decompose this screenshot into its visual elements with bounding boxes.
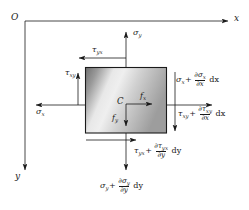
sigma-x-right-num: ∂σ — [194, 71, 202, 79]
sigma-x-left-sub: x — [41, 111, 44, 117]
tau-xy-left-label: τxy — [65, 69, 76, 77]
sigma-y-bottom-num: ∂σ — [118, 177, 126, 185]
tau-yx-bottom-sub: yx — [138, 150, 144, 156]
y-axis-label: y — [15, 172, 20, 181]
sigma-x-right-sub: x — [181, 79, 184, 85]
sigma-y-bottom-expression: σy + ∂σy ∂y dy — [100, 178, 143, 194]
tau-yx-bottom-den: ∂y — [156, 151, 166, 159]
tau-xy-right-num: ∂τ — [198, 105, 206, 113]
tau-yx-bottom-num: ∂τ — [154, 142, 162, 150]
sigma-y-top-sub: y — [138, 32, 141, 38]
tau-xy-right-diff: dx — [216, 109, 226, 118]
sigma-y-bottom-sub: y — [105, 185, 108, 191]
origin-label: O — [11, 13, 18, 22]
fx-label: fx — [140, 92, 146, 100]
sigma-y-bottom-den: ∂y — [119, 186, 129, 194]
tau-yx-bottom-num-sub: yx — [162, 145, 168, 151]
fy-sub: y — [115, 117, 118, 123]
sigma-y-bottom-diff: dy — [133, 181, 143, 190]
tau-xy-right-fraction: ∂τxy ∂x — [197, 106, 213, 122]
sigma-x-right-den: ∂x — [195, 80, 205, 88]
sigma-x-right-diff: dx — [209, 75, 219, 84]
tau-yx-bottom-diff: dy — [172, 146, 182, 155]
sigma-x-right-num-sub: x — [203, 74, 206, 80]
x-axis-label: x — [234, 14, 239, 23]
tau-xy-right-plus: + — [189, 109, 197, 118]
tau-xy-right-expression: τxy + ∂τxy ∂x dx — [178, 106, 225, 122]
tau-yx-bottom-plus: + — [145, 146, 153, 155]
sigma-y-top-label: σy — [133, 29, 142, 37]
fy-label: fy — [112, 114, 118, 122]
tau-yx-top-label: τyx — [92, 46, 103, 54]
sigma-x-right-plus: + — [185, 75, 193, 84]
sigma-x-left-label: σx — [36, 108, 45, 116]
sigma-x-right-expression: σx + ∂σx ∂x dx — [176, 72, 219, 88]
tau-yx-top-sub: yx — [96, 49, 102, 55]
tau-yx-bottom-fraction: ∂τyx ∂y — [153, 143, 169, 159]
sigma-y-bottom-plus: + — [109, 181, 117, 190]
stress-element-figure: O x y C σy τyx τxy σx fx fy σx + ∂σx ∂x … — [0, 0, 249, 210]
element-center-label: C — [117, 97, 124, 106]
sigma-y-bottom-fraction: ∂σy ∂y — [117, 178, 131, 194]
sigma-y-bottom-num-sub: y — [127, 180, 130, 186]
tau-xy-right-num-sub: xy — [206, 108, 212, 114]
tau-xy-right-den: ∂x — [200, 114, 210, 122]
tau-yx-bottom-expression: τyx + ∂τyx ∂y dy — [134, 143, 181, 159]
tau-xy-left-sub: xy — [69, 72, 75, 78]
sigma-x-right-fraction: ∂σx ∂x — [193, 72, 207, 88]
tau-xy-right-sub: xy — [182, 113, 188, 119]
fx-sub: x — [143, 95, 146, 101]
